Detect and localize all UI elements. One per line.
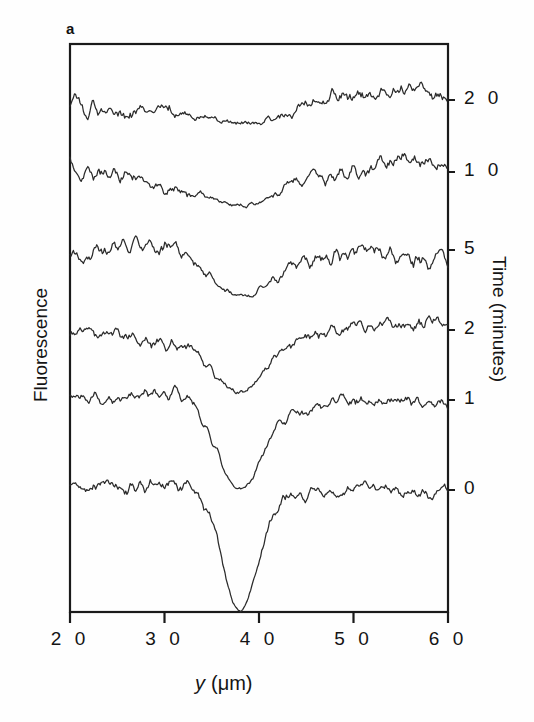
x-tick-label: 2 0 [40, 628, 100, 650]
x-axis-title-units: (μm) [211, 672, 253, 694]
right-tick-label: 2 0 [464, 87, 502, 109]
y-axis-title: Fluorescence [30, 288, 52, 402]
x-tick-marks [70, 612, 448, 623]
x-axis-title-variable: y [195, 672, 205, 694]
x-tick-label: 3 0 [135, 628, 195, 650]
axis-frame [70, 44, 448, 612]
x-tick-label: 4 0 [229, 628, 289, 650]
trace-t5 [70, 236, 448, 297]
x-axis-title: y(μm) [195, 672, 253, 695]
right-tick-label: 1 [464, 387, 479, 409]
right-tick-label: 2 [464, 317, 479, 339]
trace-t1 [70, 385, 448, 488]
right-tick-label: 5 [464, 237, 479, 259]
x-tick-label: 5 0 [324, 628, 384, 650]
right-tick-label: 1 0 [464, 159, 502, 181]
plot-canvas [0, 0, 534, 722]
trace-lines [70, 82, 448, 612]
trace-t10 [70, 154, 448, 208]
trace-t20 [70, 82, 448, 124]
trace-t0 [70, 480, 448, 612]
figure-root: a Fluorescence Time (minutes) 2 03 04 05… [0, 0, 534, 722]
x-tick-label: 6 0 [418, 628, 478, 650]
trace-t2 [70, 316, 448, 394]
right-tick-label: 0 [464, 477, 479, 499]
right-axis-title: Time (minutes) [488, 256, 510, 382]
